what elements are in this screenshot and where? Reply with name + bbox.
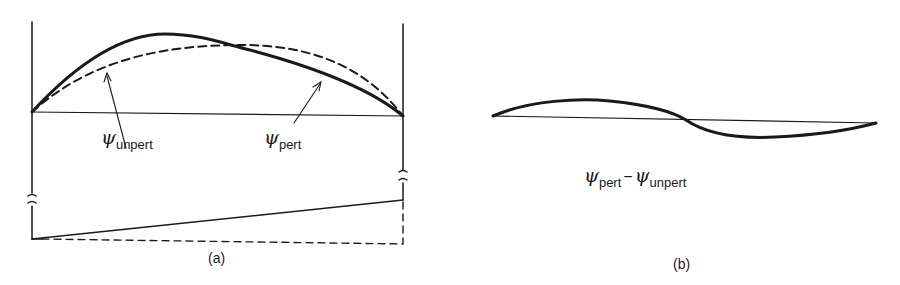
caption-b: (b) <box>673 256 690 272</box>
minus-sign: − <box>623 168 632 185</box>
psi-symbol: ψ <box>264 126 279 148</box>
potential-perturbed-line <box>32 200 403 239</box>
caption-a: (a) <box>208 250 225 266</box>
subscript-unpert: unpert <box>650 175 687 190</box>
psi-symbol: ψ <box>101 126 116 148</box>
potential-unperturbed-dashed <box>42 200 403 244</box>
subscript-unpert: unpert <box>116 137 153 152</box>
left-wall-break-icon <box>28 195 36 204</box>
psi-unpert-curve <box>32 45 403 116</box>
psi-symbol: ψ <box>635 164 650 186</box>
difference-curve <box>493 100 876 138</box>
psi-symbol: ψ <box>584 164 599 186</box>
label-psi-pert: ψpert <box>264 126 301 148</box>
label-psi-unpert: ψunpert <box>101 126 153 148</box>
subscript-pert: pert <box>279 137 301 152</box>
pert-arrow <box>294 84 320 123</box>
subscript-pert: pert <box>599 175 621 190</box>
baseline-a <box>32 112 403 116</box>
right-wall-break-icon <box>399 171 407 181</box>
pert-arrowhead-icon <box>313 82 321 91</box>
figure: ψunpert ψpert (a) ψpert−ψunpert (b) <box>0 0 900 285</box>
label-difference: ψpert−ψunpert <box>584 164 686 186</box>
